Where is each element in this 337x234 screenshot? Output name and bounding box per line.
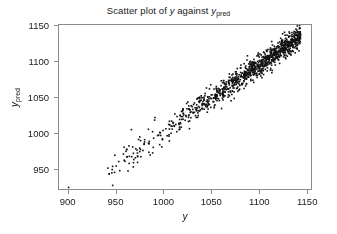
y-tick-mark: [54, 25, 58, 26]
x-tick-mark: [163, 190, 164, 194]
y-tick-label: 950: [9, 164, 49, 175]
scatter-plot-figure: Scatter plot of y against ypred 90095010…: [0, 0, 337, 234]
x-tick-mark: [116, 190, 117, 194]
y-axis-label-subscript: pred: [14, 88, 21, 102]
title-var-ypred-subscript: pred: [216, 10, 230, 17]
x-tick-mark: [307, 190, 308, 194]
y-tick-label: 1100: [9, 56, 49, 67]
scatter-points-canvas: [59, 25, 312, 190]
x-axis-label-text: y: [183, 211, 188, 222]
y-tick-mark: [54, 169, 58, 170]
y-axis-label: ypred: [9, 68, 20, 128]
y-axis-label-text: y: [9, 102, 20, 107]
page-title: Scatter plot of y against ypred: [0, 5, 337, 18]
x-tick-mark: [68, 190, 69, 194]
y-tick-mark: [54, 133, 58, 134]
y-tick-mark: [54, 61, 58, 62]
x-tick-label: 1150: [277, 196, 337, 207]
title-prefix: Scatter plot of: [107, 5, 170, 16]
title-middle: against: [175, 5, 212, 16]
plot-area: [58, 24, 312, 190]
x-tick-mark: [211, 190, 212, 194]
y-tick-label: 1000: [9, 128, 49, 139]
x-tick-mark: [259, 190, 260, 194]
y-tick-label: 1150: [9, 20, 49, 31]
y-tick-mark: [54, 97, 58, 98]
x-axis-label: y: [58, 211, 312, 222]
